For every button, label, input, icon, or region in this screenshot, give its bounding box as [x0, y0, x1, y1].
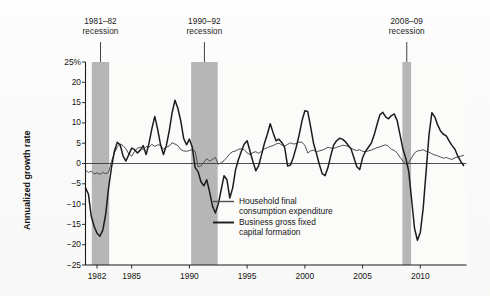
- legend-label-line1: Business gross fixed: [239, 217, 316, 227]
- y-tick-label-0: 25%: [51, 57, 81, 67]
- x-tick-label-6: 2010: [400, 271, 440, 281]
- legend-entry-business: Business gross fixed capital formation: [239, 217, 316, 238]
- annotation-recession-1981-82: 1981–82 recession: [64, 17, 138, 37]
- annotation-line2: recession: [64, 27, 138, 37]
- y-tick-label-3: 10: [51, 117, 81, 127]
- annotation-line1: 1990–92: [167, 17, 241, 27]
- x-tick-label-2: 1990: [169, 271, 209, 281]
- legend-label-line2: consumption expenditure: [239, 206, 333, 216]
- x-tick-label-4: 2000: [285, 271, 325, 281]
- annotation-line1: 2008–09: [370, 17, 444, 27]
- x-tick-label-1: 1985: [112, 271, 152, 281]
- legend-label-line2: capital formation: [239, 227, 316, 237]
- annotation-line2: recession: [370, 27, 444, 37]
- annotation-line1: 1981–82: [64, 17, 138, 27]
- y-tick-label-5: 0: [51, 158, 81, 168]
- y-tick-label-7: −10: [51, 199, 81, 209]
- legend-entry-household: Household final consumption expenditure: [239, 196, 333, 217]
- y-tick-label-8: −15: [51, 219, 81, 229]
- y-tick-label-2: 15: [51, 97, 81, 107]
- annotation-recession-1990-92: 1990–92 recession: [167, 17, 241, 37]
- chart-canvas: [0, 0, 490, 296]
- x-tick-label-3: 1995: [227, 271, 267, 281]
- x-tick-label-5: 2005: [343, 271, 383, 281]
- legend-label-line1: Household final: [239, 196, 333, 206]
- figure-container: 1981–82 recession 1990–92 recession 2008…: [0, 0, 490, 296]
- y-axis-title: Annualized growth rate: [22, 130, 32, 230]
- annotation-line2: recession: [167, 27, 241, 37]
- y-tick-label-1: 20: [51, 77, 81, 87]
- y-tick-label-9: −20: [51, 239, 81, 249]
- y-tick-label-4: 5: [51, 138, 81, 148]
- y-tick-label-6: −5: [51, 178, 81, 188]
- annotation-recession-2008-09: 2008–09 recession: [370, 17, 444, 37]
- y-tick-label-10: −25: [51, 260, 81, 270]
